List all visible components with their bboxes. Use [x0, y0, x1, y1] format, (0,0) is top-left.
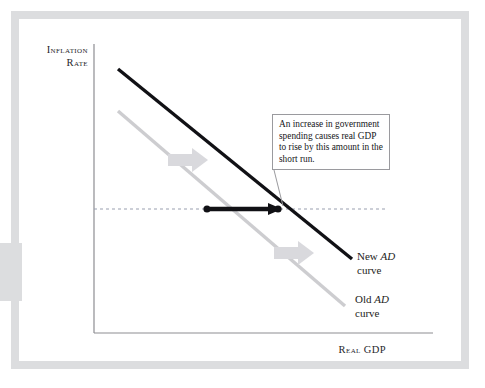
y-axis-label: Inflation Rate: [34, 43, 88, 69]
shift-arrow-upper-icon: [168, 148, 208, 172]
callout-box: An increase in government spending cause…: [272, 114, 390, 170]
diagram-page: Inflation Rate Real GDP New AD curve Old…: [0, 0, 485, 388]
old-equilibrium-point: [203, 205, 210, 212]
old-ad-curve-label: Old AD curve: [355, 293, 389, 320]
old-ad-curve-label-line1: Old AD: [355, 293, 389, 305]
old-ad-curve-label-line2: curve: [355, 307, 379, 319]
new-ad-curve-label-line1: New AD: [357, 250, 395, 262]
x-axis-label: Real GDP: [300, 343, 386, 356]
new-ad-curve-label: New AD curve: [357, 250, 395, 277]
gdp-increase-arrow-icon: [210, 203, 282, 215]
new-ad-curve-label-line2: curve: [357, 264, 381, 276]
